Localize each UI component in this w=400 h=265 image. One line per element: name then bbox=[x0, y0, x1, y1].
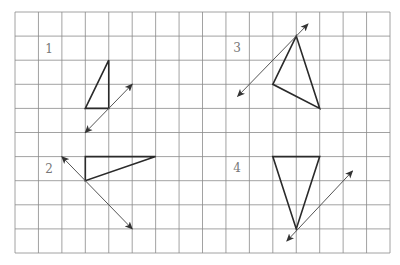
grid-diagram: 1234 bbox=[0, 0, 400, 265]
figure-label: 3 bbox=[233, 41, 241, 55]
figure-4 bbox=[273, 157, 353, 241]
square-grid bbox=[15, 12, 390, 253]
figure-label: 1 bbox=[45, 42, 53, 56]
figure-label: 2 bbox=[45, 162, 53, 176]
figure-label: 4 bbox=[233, 161, 241, 175]
triangle bbox=[85, 157, 155, 181]
figure-3 bbox=[238, 24, 320, 108]
